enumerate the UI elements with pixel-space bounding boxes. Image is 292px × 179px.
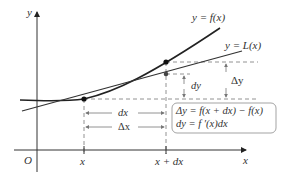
tangent-line-L xyxy=(22,51,242,111)
point-L-x-dx xyxy=(164,72,169,77)
dx-label: dx xyxy=(118,108,128,119)
x-axis-label: x xyxy=(243,155,248,166)
point-x xyxy=(81,96,86,101)
dy-label: dy xyxy=(191,81,201,92)
y-axis-label: y xyxy=(27,7,32,18)
curve-f-label: y = f(x) xyxy=(192,12,225,23)
tick-label-x: x xyxy=(80,156,85,167)
origin-label: O xyxy=(24,155,32,166)
point-f-x-dx xyxy=(163,59,168,64)
diagram-svg xyxy=(0,0,292,179)
diagram-canvas: y x O x x + dx y = f(x) y = L(x) dy Δy d… xyxy=(0,0,292,179)
delta-x-label: Δx xyxy=(118,122,130,133)
curve-f xyxy=(20,28,220,101)
delta-y-label: Δy xyxy=(231,75,244,86)
formula-delta-y: Δy = f(x + dx) − f(x) xyxy=(176,106,263,117)
tick-label-x-dx: x + dx xyxy=(155,156,183,167)
curve-L-label: y = L(x) xyxy=(225,40,261,51)
formula-dy: dy = f ′(x)dx xyxy=(176,119,228,130)
